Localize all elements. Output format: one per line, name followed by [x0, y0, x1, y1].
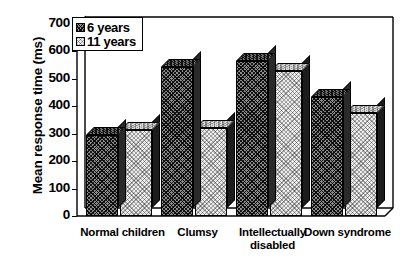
- bar-face: [311, 97, 343, 216]
- bar-6-years-2: [236, 61, 268, 216]
- bar-face: [86, 135, 118, 216]
- bar-6-years-3: [311, 97, 343, 216]
- category-label-3: Down syndrome: [293, 226, 403, 239]
- bar-chart: Mean response time (ms) 0100200300400500…: [0, 0, 415, 267]
- legend-swatch-11-years: [76, 37, 85, 46]
- category-label-line2: disabled: [218, 239, 328, 252]
- bar-side: [302, 55, 310, 208]
- bar-side: [193, 51, 201, 208]
- bar-6-years-1: [161, 67, 193, 216]
- bar-top: [161, 59, 201, 67]
- legend-swatch-6-years: [76, 23, 85, 32]
- category-label-line1: Down syndrome: [293, 226, 403, 239]
- legend-label-11-years: 11 years: [87, 34, 136, 49]
- legend-item-6-years: 6 years: [76, 20, 136, 34]
- legend-item-11-years: 11 years: [76, 34, 136, 48]
- bar-face: [236, 61, 268, 216]
- chart-legend: 6 years 11 years: [72, 17, 143, 51]
- bar-face: [161, 67, 193, 216]
- bar-6-years-0: [86, 135, 118, 216]
- bar-top: [311, 89, 351, 97]
- legend-label-6-years: 6 years: [87, 20, 130, 35]
- bar-side: [343, 81, 351, 208]
- bar-side: [377, 97, 385, 208]
- bar-side: [268, 45, 276, 208]
